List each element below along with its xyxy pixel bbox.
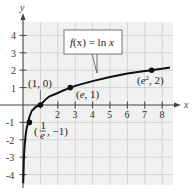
ln-graph: y x 2 3 4 5 6 7 8 4 3 2 1 -1 -2 - bbox=[0, 0, 192, 196]
svg-text:-1: -1 bbox=[6, 117, 14, 128]
svg-text:(: ( bbox=[34, 125, 38, 138]
y-axis-label: y bbox=[19, 2, 25, 13]
svg-text:2: 2 bbox=[11, 65, 16, 76]
svg-text:6: 6 bbox=[125, 109, 130, 120]
label-e2-2: (e2, 2) bbox=[137, 74, 164, 87]
svg-text:e: e bbox=[40, 129, 45, 141]
svg-text:8: 8 bbox=[159, 109, 164, 120]
svg-text:7: 7 bbox=[142, 109, 147, 120]
point-e2-2 bbox=[149, 67, 155, 73]
svg-text:4: 4 bbox=[90, 109, 95, 120]
svg-text:-3: -3 bbox=[6, 152, 14, 163]
svg-text:4: 4 bbox=[11, 30, 16, 41]
x-axis-label: x bbox=[183, 99, 189, 110]
svg-text:-2: -2 bbox=[6, 135, 14, 146]
point-e-1 bbox=[68, 85, 74, 91]
label-e-1: (e, 1) bbox=[76, 88, 100, 101]
svg-text:, −1): , −1) bbox=[47, 125, 68, 138]
label-1-0: (1, 0) bbox=[28, 77, 52, 90]
svg-text:-4: -4 bbox=[6, 170, 14, 181]
x-axis-arrow-icon bbox=[174, 103, 181, 108]
y-axis-arrow-icon bbox=[21, 13, 26, 20]
point-1-0 bbox=[38, 102, 44, 108]
function-label-text: f(x) = ln x bbox=[70, 36, 114, 49]
svg-text:3: 3 bbox=[11, 48, 16, 59]
svg-text:1: 1 bbox=[11, 83, 16, 94]
svg-text:3: 3 bbox=[72, 109, 77, 120]
point-inv-e-neg1 bbox=[27, 120, 33, 126]
svg-text:5: 5 bbox=[107, 109, 112, 120]
svg-text:2: 2 bbox=[55, 109, 60, 120]
